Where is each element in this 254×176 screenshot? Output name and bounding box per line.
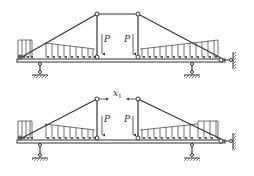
- distributed-load-left-triangle: [45, 43, 95, 57]
- unknown-subscript: 1: [118, 92, 122, 99]
- hinge: [95, 97, 99, 101]
- point-load-right-label: P: [123, 114, 131, 124]
- distributed-load-right-triangle: [140, 121, 218, 138]
- x1-arrowhead-left: [126, 98, 129, 101]
- distributed-load-left-triangle: [45, 124, 95, 138]
- hinge: [18, 136, 22, 140]
- point-load-right-label: P: [123, 34, 131, 44]
- unknown-x1-label: x1: [113, 88, 122, 99]
- hinge: [95, 136, 99, 140]
- hinge: [136, 55, 140, 59]
- top-diagram: [17, 12, 236, 78]
- hinge: [95, 55, 99, 59]
- wall-link-right: [223, 133, 236, 150]
- hinge: [136, 12, 140, 16]
- hinge: [136, 97, 140, 101]
- hinge: [136, 136, 140, 140]
- pin-support-left: [32, 143, 48, 161]
- point-load-left-label: P: [103, 114, 111, 124]
- point-load-left-label: P: [103, 34, 111, 44]
- bottom-diagram: [17, 97, 236, 161]
- hinge: [219, 139, 223, 143]
- left-diagonal-member: [20, 14, 97, 58]
- hinge: [18, 55, 22, 59]
- distributed-load-left-rect: [18, 121, 32, 138]
- beam: [17, 59, 225, 62]
- left-diagonal-member: [20, 99, 97, 139]
- wall-link-right: [223, 52, 236, 69]
- pin-support-right: [184, 143, 200, 161]
- structure-diagram: P P: [0, 0, 254, 176]
- distributed-load-right-triangle: [140, 40, 218, 57]
- beam: [17, 140, 225, 143]
- right-diagonal-member: [138, 14, 221, 58]
- right-diagonal-member: [138, 99, 221, 139]
- hinge: [219, 58, 223, 62]
- pin-support-left: [32, 62, 48, 78]
- hinge: [95, 12, 99, 16]
- distributed-load-left-rect: [18, 40, 32, 57]
- x1-arrowhead-right: [106, 98, 109, 101]
- pin-support-right: [184, 62, 200, 78]
